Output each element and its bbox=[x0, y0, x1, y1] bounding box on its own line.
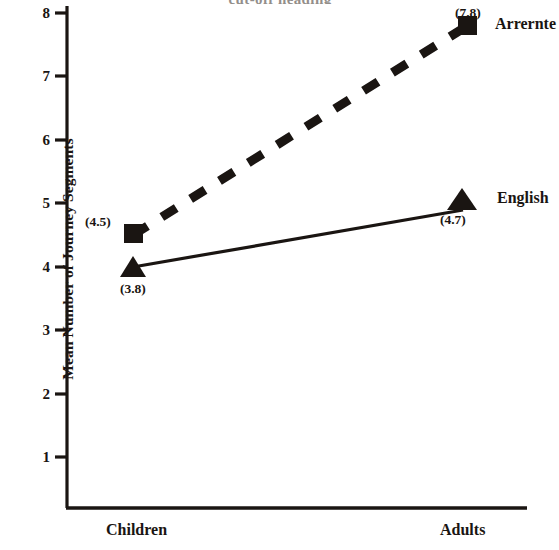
chart-container: cut-off heading 8 7 6 5 4 3 2 bbox=[0, 0, 559, 550]
y-tick-label-5: 5 bbox=[28, 196, 50, 211]
y-axis-title: Mean Number of Journey Segments bbox=[59, 109, 77, 409]
marker-arrernte-children bbox=[124, 224, 143, 243]
point-label-arrernte-children: (4.5) bbox=[85, 215, 111, 229]
point-label-arrernte-adults: (7.8) bbox=[455, 6, 481, 20]
y-tick-label-7: 7 bbox=[28, 69, 50, 84]
series-line-arrernte bbox=[133, 26, 467, 235]
point-label-english-children: (3.8) bbox=[120, 282, 146, 296]
x-category-children: Children bbox=[106, 522, 167, 538]
y-tick-label-8: 8 bbox=[28, 6, 50, 21]
chart-plot-area bbox=[0, 0, 559, 550]
y-tick-label-6: 6 bbox=[28, 133, 50, 148]
series-label-english: English bbox=[497, 190, 549, 206]
point-label-english-adults: (4.7) bbox=[440, 213, 466, 227]
y-tick-label-2: 2 bbox=[28, 387, 50, 402]
y-tick-label-3: 3 bbox=[28, 323, 50, 338]
marker-english-adults bbox=[447, 188, 477, 210]
series-line-english bbox=[133, 210, 463, 267]
y-tick-label-1: 1 bbox=[28, 450, 50, 465]
series-label-arrernte: Arrernte bbox=[495, 16, 556, 32]
y-tick-label-4: 4 bbox=[28, 260, 50, 275]
x-category-adults: Adults bbox=[440, 522, 485, 538]
